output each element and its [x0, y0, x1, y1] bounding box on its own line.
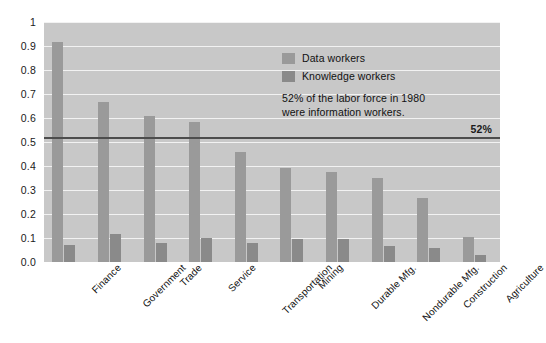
y-axis: 0.00.10.20.30.40.50.60.70.80.91	[0, 22, 40, 262]
x-axis-tick-label: Finance	[89, 262, 122, 295]
bar-knowledge-workers	[247, 243, 258, 262]
bar-group	[52, 22, 75, 262]
bar-knowledge-workers	[64, 245, 75, 262]
y-axis-tick-label: 1	[30, 16, 36, 28]
bar-knowledge-workers	[429, 248, 440, 262]
bar-data-workers	[98, 102, 109, 262]
x-axis-tick-label: Transportation	[280, 262, 334, 316]
x-axis: FinanceGovernmentTradeServiceTransportat…	[44, 262, 500, 343]
legend-item-knowledge-workers: Knowledge workers	[282, 70, 395, 82]
bar-group	[463, 22, 486, 262]
legend-swatch-icon-data-workers	[282, 53, 295, 64]
bar-group	[189, 22, 212, 262]
y-axis-tick-label: 0.4	[21, 160, 36, 172]
bar-data-workers	[280, 168, 291, 262]
bar-knowledge-workers	[475, 255, 486, 262]
x-axis-tick-label: Durable Mfg.	[370, 262, 419, 311]
y-axis-tick-label: 0.9	[21, 40, 36, 52]
y-axis-tick-label: 0.3	[21, 184, 36, 196]
annotation-text: 52% of the labor force in 1980 were info…	[282, 92, 492, 119]
y-axis-tick-label: 0.5	[21, 136, 36, 148]
bar-knowledge-workers	[156, 243, 167, 262]
x-axis-tick-label: Service	[226, 262, 258, 294]
bar-data-workers	[52, 42, 63, 262]
bar-group	[417, 22, 440, 262]
y-axis-tick-label: 0.2	[21, 208, 36, 220]
bar-data-workers	[326, 172, 337, 262]
plot-area: Data workers Knowledge workers 52% of th…	[44, 22, 500, 262]
legend-swatch-icon-knowledge-workers	[282, 71, 295, 82]
bar-group	[144, 22, 167, 262]
x-axis-tick-label: Government	[141, 262, 188, 309]
legend-label-data-workers: Data workers	[302, 52, 365, 64]
bar-data-workers	[417, 198, 428, 262]
x-axis-tick-label: Agriculture	[504, 262, 546, 304]
bar-data-workers	[372, 178, 383, 262]
y-axis-tick-label: 0.6	[21, 112, 36, 124]
legend: Data workers Knowledge workers	[282, 52, 395, 88]
bar-group	[235, 22, 258, 262]
bar-knowledge-workers	[338, 239, 349, 262]
legend-item-data-workers: Data workers	[282, 52, 395, 64]
y-axis-tick-label: 0.0	[21, 256, 36, 268]
bar-data-workers	[463, 237, 474, 262]
y-axis-tick-label: 0.8	[21, 64, 36, 76]
bar-knowledge-workers	[292, 239, 303, 262]
bar-knowledge-workers	[384, 246, 395, 262]
annotation-line-1: 52% of the labor force in 1980	[282, 92, 492, 106]
legend-label-knowledge-workers: Knowledge workers	[302, 70, 395, 82]
bar-knowledge-workers	[110, 234, 121, 262]
reference-line-label: 52%	[470, 123, 492, 135]
bar-knowledge-workers	[201, 238, 212, 262]
bar-group	[98, 22, 121, 262]
reference-line-52-percent	[44, 137, 500, 139]
bar-data-workers	[189, 122, 200, 262]
y-axis-tick-label: 0.1	[21, 232, 36, 244]
bar-data-workers	[235, 152, 246, 262]
y-axis-tick-label: 0.7	[21, 88, 36, 100]
annotation-line-2: were information workers.	[282, 106, 492, 120]
